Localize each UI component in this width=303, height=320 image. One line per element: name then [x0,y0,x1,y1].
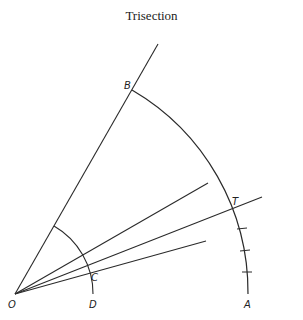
tick-mark-2 [240,250,250,251]
label-O: O [8,299,16,310]
label-A: A [243,299,251,310]
label-C: C [91,272,98,283]
tick-mark-1 [237,228,247,229]
label-T: T [232,196,239,207]
label-D: D [89,299,97,310]
label-B: B [124,80,131,91]
trisection-diagram: O D A B C T [0,0,303,320]
ray-OB [15,44,158,294]
ray-upper-trisector [15,183,208,294]
outer-arc-BA [132,90,248,294]
ray-OT [15,197,262,294]
ray-lower-trisector [15,241,206,294]
